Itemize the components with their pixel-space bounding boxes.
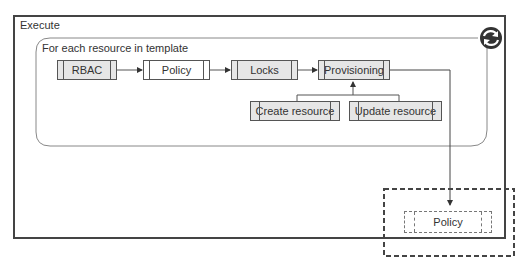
step-label: Provisioning bbox=[324, 64, 384, 76]
loop-label: For each resource in template bbox=[42, 42, 188, 54]
box-edge bbox=[383, 61, 384, 79]
box-edge bbox=[481, 212, 482, 232]
step-label: RBAC bbox=[72, 64, 103, 76]
box-edge bbox=[110, 61, 111, 79]
box-edge bbox=[291, 61, 292, 79]
external-policy-step[interactable]: Policy bbox=[404, 211, 492, 233]
step-label: Policy bbox=[433, 216, 462, 228]
pipeline-step-policy[interactable]: Policy bbox=[143, 60, 210, 80]
box-edge bbox=[330, 102, 331, 120]
pipeline-step-provisioning[interactable]: Provisioning bbox=[318, 60, 390, 80]
pipeline-step-rbac[interactable]: RBAC bbox=[57, 60, 117, 80]
loop-container bbox=[36, 38, 487, 146]
box-edge bbox=[414, 212, 415, 232]
box-edge bbox=[237, 61, 238, 79]
execute-label: Execute bbox=[20, 19, 60, 31]
sub-step-update-resource[interactable]: Update resource bbox=[349, 101, 442, 121]
box-edge bbox=[358, 102, 359, 120]
box-edge bbox=[63, 61, 64, 79]
box-edge bbox=[259, 102, 260, 120]
refresh-cycle-icon bbox=[480, 27, 502, 49]
box-edge bbox=[203, 61, 204, 79]
box-edge bbox=[432, 102, 433, 120]
step-label: Create resource bbox=[256, 105, 335, 117]
box-edge bbox=[149, 61, 150, 79]
pipeline-step-locks[interactable]: Locks bbox=[231, 60, 298, 80]
sub-step-create-resource[interactable]: Create resource bbox=[250, 101, 340, 121]
step-label: Update resource bbox=[355, 105, 436, 117]
step-label: Policy bbox=[162, 64, 191, 76]
box-edge bbox=[324, 61, 325, 79]
step-label: Locks bbox=[250, 64, 279, 76]
arrow-provisioning-external-policy bbox=[390, 70, 450, 205]
